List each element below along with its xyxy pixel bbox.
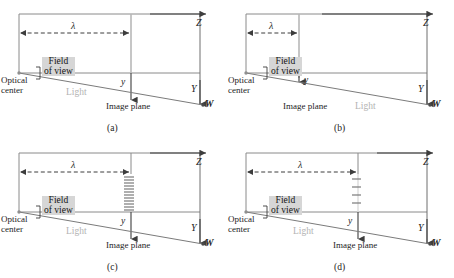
optical-center-label: Optical center bbox=[1, 214, 28, 234]
y-offset-label: y bbox=[304, 76, 308, 86]
panel-caption-d: (d) bbox=[334, 263, 345, 273]
field-of-view-line-2: of view bbox=[44, 66, 73, 76]
field-of-view-label: Field of view bbox=[269, 57, 302, 76]
optical-center-line-2: center bbox=[228, 224, 250, 234]
z-axis-label: Z bbox=[423, 157, 429, 168]
panel-caption-a: (a) bbox=[107, 124, 118, 134]
field-of-view-line-2: of view bbox=[44, 205, 73, 215]
field-of-view-line-1: Field bbox=[276, 195, 296, 205]
optical-center-line-2: center bbox=[228, 85, 250, 95]
field-of-view-label: Field of view bbox=[42, 57, 75, 76]
optical-center-line-1: Optical bbox=[228, 75, 255, 85]
y-axis-label: Y bbox=[191, 84, 197, 95]
w-axis-label: W bbox=[432, 239, 440, 249]
panel-b-drawing bbox=[227, 0, 454, 139]
z-axis-label: Z bbox=[196, 157, 202, 168]
z-axis-label: Z bbox=[196, 18, 202, 29]
image-plane-label: Image plane bbox=[333, 241, 377, 250]
image-plane-label: Image plane bbox=[106, 241, 150, 250]
panel-a-drawing bbox=[0, 0, 227, 139]
dense-tick-marks bbox=[124, 177, 134, 210]
field-of-view-line-2: of view bbox=[271, 66, 300, 76]
lambda-label: λ bbox=[298, 160, 302, 171]
field-of-view-line-1: Field bbox=[49, 56, 69, 66]
camera-projection-figure: Z Y W λ y Optical center Field of view L… bbox=[0, 0, 454, 278]
y-offset-label: y bbox=[121, 217, 125, 227]
panel-d: Z Y W λ y Optical center Field of view L… bbox=[227, 139, 454, 278]
optical-center-label: Optical center bbox=[228, 75, 255, 95]
lambda-label: λ bbox=[71, 160, 75, 171]
panel-d-drawing bbox=[227, 139, 454, 278]
panel-c: Z Y W λ y Optical center Field of view L… bbox=[0, 139, 227, 278]
panel-caption-b: (b) bbox=[334, 124, 345, 134]
optical-center-label: Optical center bbox=[228, 214, 255, 234]
light-label: Light bbox=[66, 88, 87, 98]
light-label: Light bbox=[355, 102, 376, 112]
panel-a: Z Y W λ y Optical center Field of view L… bbox=[0, 0, 227, 139]
lambda-label: λ bbox=[269, 21, 273, 32]
image-plane-label: Image plane bbox=[283, 102, 327, 111]
sparse-tick-marks bbox=[352, 179, 361, 203]
optical-center-line-1: Optical bbox=[1, 75, 28, 85]
y-axis-label: Y bbox=[418, 223, 424, 234]
y-offset-label: y bbox=[121, 78, 125, 88]
field-of-view-label: Field of view bbox=[269, 196, 302, 215]
optical-center-line-1: Optical bbox=[228, 214, 255, 224]
optical-center-label: Optical center bbox=[1, 75, 28, 95]
image-plane-label: Image plane bbox=[106, 102, 150, 111]
optical-center-line-2: center bbox=[1, 85, 23, 95]
field-of-view-line-1: Field bbox=[276, 56, 296, 66]
y-axis-label: Y bbox=[191, 223, 197, 234]
w-axis-label: W bbox=[205, 239, 213, 249]
field-of-view-label: Field of view bbox=[42, 196, 75, 215]
y-axis-label: Y bbox=[418, 84, 424, 95]
y-offset-label: y bbox=[348, 217, 352, 227]
field-of-view-line-1: Field bbox=[49, 195, 69, 205]
light-label: Light bbox=[66, 227, 87, 237]
light-label: Light bbox=[293, 227, 314, 237]
field-of-view-line-2: of view bbox=[271, 205, 300, 215]
w-axis-label: W bbox=[205, 100, 213, 110]
lambda-label: λ bbox=[71, 21, 75, 32]
optical-center-line-2: center bbox=[1, 224, 23, 234]
panel-caption-c: (c) bbox=[107, 263, 118, 273]
panel-c-drawing bbox=[0, 139, 227, 278]
optical-center-line-1: Optical bbox=[1, 214, 28, 224]
panel-b: Z Y W λ y Optical center Field of view L… bbox=[227, 0, 454, 139]
w-axis-label: W bbox=[432, 100, 440, 110]
z-axis-label: Z bbox=[423, 18, 429, 29]
